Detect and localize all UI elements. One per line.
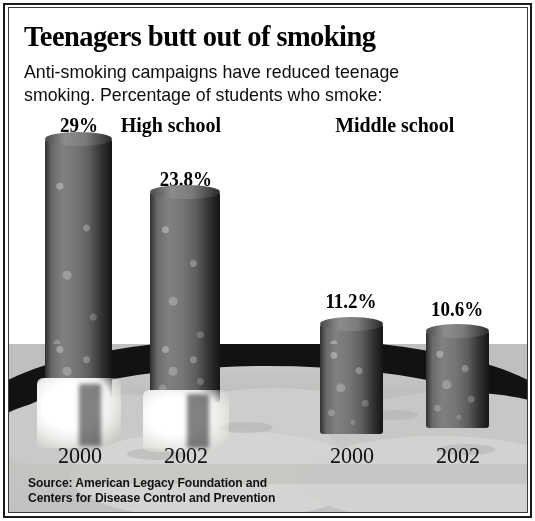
bar-body-stub-ms-2002	[426, 344, 489, 428]
subtitle-line-1: Anti-smoking campaigns have reduced teen…	[24, 60, 446, 83]
value-label-ms-2000: 11.2%	[314, 290, 388, 313]
filter-hs-2000	[39, 378, 119, 448]
value-label-ms-2002: 10.6%	[420, 298, 494, 321]
filter-shadow-hs-2000	[79, 384, 101, 446]
bar-body-stub-ms-2000	[320, 344, 383, 434]
source-line-2: Centers for Disease Control and Preventi…	[28, 491, 275, 506]
group-label-high-school: High school	[121, 113, 221, 138]
source-line-1: Source: American Legacy Foundation and	[28, 476, 275, 491]
bar-stub-ms-2002	[426, 344, 489, 428]
bar-top-cap-ms-2000	[320, 317, 383, 331]
group-label-middle-school: Middle school	[335, 113, 454, 138]
bar-top-cap-hs-2002	[150, 185, 220, 199]
bar-top-cap-hs-2000	[45, 132, 112, 146]
axis-label-ms-2000: 2000	[316, 443, 389, 469]
bar-stub-ms-2000	[320, 344, 383, 434]
subtitle-line-2: smoking. Percentage of students who smok…	[24, 83, 446, 106]
axis-label-ms-2002: 2002	[422, 443, 495, 469]
bar-top-cap-ms-2002	[426, 324, 489, 338]
axis-label-hs-2002: 2002	[150, 443, 223, 469]
axis-label-hs-2000: 2000	[44, 443, 117, 469]
source-note: Source: American Legacy Foundation and C…	[28, 476, 275, 505]
page-title: Teenagers butt out of smoking	[24, 20, 433, 52]
filter-shadow-hs-2002	[187, 394, 209, 448]
infographic-root: Teenagers butt out of smoking Anti-smoki…	[0, 0, 535, 521]
page-subtitle: Anti-smoking campaigns have reduced teen…	[24, 60, 446, 106]
